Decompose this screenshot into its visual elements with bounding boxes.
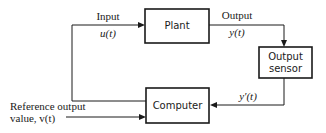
output-signal-line [209,25,284,42]
plant-label: Plant [164,20,189,31]
sensor-label-line2: sensor [269,63,303,74]
input-label: Input [96,10,119,22]
computer-label: Computer [153,100,204,111]
measured-symbol: y′(t) [238,90,257,103]
sensor-label-line1: Output [268,51,303,62]
reference-label-line2: value, v(t) [10,112,56,125]
measured-arrowhead [210,102,217,108]
reference-arrowhead [139,114,146,120]
input-arrowhead [138,22,145,28]
input-symbol: u(t) [100,27,116,40]
output-arrowhead [281,40,287,47]
output-symbol: y(t) [228,26,245,39]
output-label: Output [222,9,253,21]
reference-label-line1: Reference output [10,100,85,112]
block-diagram: Plant Computer Output sensor Input u(t) … [0,0,326,133]
